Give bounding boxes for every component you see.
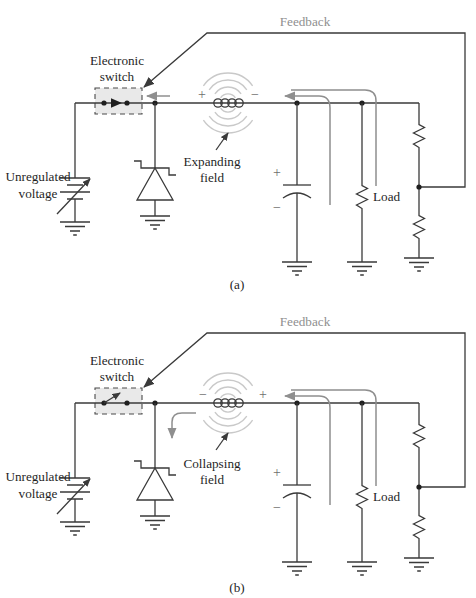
switch-label-line1: Electronic: [90, 353, 144, 368]
field-label-line2: field: [200, 472, 225, 487]
switch-dashed-box: [95, 88, 142, 114]
load-label: Load: [373, 489, 401, 504]
circuit-diagram-b: Feedback Electronic switch Unregulated v…: [0, 300, 476, 598]
ground-icon: [60, 222, 90, 235]
figure-switching-regulator: Feedback Electronic switch Unregulated v…: [0, 0, 476, 598]
switch-contact-right: [124, 400, 129, 405]
inductor: − + Collapsing field: [183, 373, 267, 487]
electronic-switch: Electronic switch: [90, 353, 144, 414]
ground-icon: [347, 262, 377, 275]
inductor-polarity-right: +: [259, 387, 267, 402]
feedback-label: Feedback: [280, 314, 331, 329]
ground-icon: [60, 522, 90, 535]
source-label-line2: voltage: [19, 486, 58, 501]
diode-triangle-icon: [137, 168, 173, 200]
capacitor-polarity-bottom: −: [273, 500, 281, 515]
switch-label-line2: switch: [100, 69, 135, 84]
divider-tap-node-dot: [416, 184, 421, 189]
divider-resistor-top-icon: [414, 122, 425, 150]
field-pointer-arrow-icon: [216, 133, 228, 150]
source-label-line1: Unregulated: [5, 169, 71, 184]
unregulated-voltage-source: Unregulated voltage: [5, 103, 90, 235]
current-flow-arrow-down-icon: [172, 413, 196, 438]
divider-resistor-top-icon: [414, 422, 425, 450]
flow-arrow-capacitor-icon: [285, 96, 330, 205]
switch-contact-right: [124, 100, 129, 105]
schottky-diode-branch: [134, 100, 176, 229]
capacitor-polarity-top: +: [273, 165, 281, 180]
load-branch: Load: [347, 100, 401, 275]
output-capacitor: + −: [273, 100, 312, 275]
switch-label-line2: switch: [100, 369, 135, 384]
inductor-polarity-right: −: [251, 87, 259, 102]
switch-label-line1: Electronic: [90, 53, 144, 68]
load-resistor-icon: [357, 483, 368, 511]
inductor: + − Expanding field: [183, 73, 259, 185]
variable-arrow-icon: [57, 479, 90, 514]
feedback-label: Feedback: [280, 14, 331, 29]
ground-icon: [282, 262, 312, 275]
switch-dashed-box: [95, 388, 142, 414]
field-label-line2: field: [200, 170, 225, 185]
inductor-polarity-left: +: [198, 87, 206, 102]
field-pointer-arrow-icon: [216, 433, 228, 450]
panel-caption-a: (a): [230, 277, 245, 292]
ground-icon: [140, 216, 170, 229]
diode-triangle-icon: [137, 468, 173, 500]
load-label: Load: [373, 189, 401, 204]
ground-icon: [404, 558, 434, 571]
panel-caption-b: (b): [229, 580, 244, 595]
inductor-polarity-left: −: [199, 387, 207, 402]
unregulated-voltage-source: Unregulated voltage: [5, 403, 90, 535]
ground-icon: [140, 516, 170, 529]
circuit-diagram-a: Feedback Electronic switch Unregulated v…: [0, 0, 476, 300]
variable-arrow-icon: [57, 179, 90, 214]
load-resistor-icon: [357, 183, 368, 211]
divider-resistor-bottom-icon: [414, 513, 425, 541]
load-branch: Load: [347, 400, 401, 575]
schottky-diode-branch: [134, 400, 176, 529]
capacitor-polarity-top: +: [273, 465, 281, 480]
ground-icon: [347, 562, 377, 575]
capacitor-polarity-bottom: −: [273, 200, 281, 215]
divider-tap-node-dot: [416, 484, 421, 489]
source-label-line1: Unregulated: [5, 469, 71, 484]
field-label-line1: Collapsing: [183, 456, 241, 471]
switch-contact-left: [101, 100, 106, 105]
ground-icon: [404, 258, 434, 271]
flow-arrow-capacitor-icon: [285, 396, 330, 505]
divider-resistor-bottom-icon: [414, 213, 425, 241]
output-capacitor: + −: [273, 400, 312, 575]
ground-icon: [282, 562, 312, 575]
field-label-line1: Expanding: [183, 154, 241, 169]
source-label-line2: voltage: [19, 186, 58, 201]
